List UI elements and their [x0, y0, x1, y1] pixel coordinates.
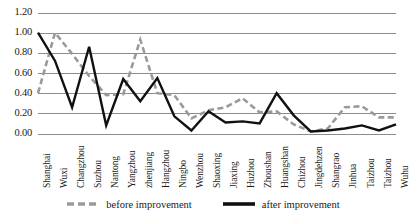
- x-axis-tick-label: Suzhou: [93, 160, 103, 188]
- legend-item-after-improvement[interactable]: after improvement: [222, 199, 340, 210]
- x-axis-tick-label: Hangzhou: [161, 150, 171, 188]
- y-axis-tick-label: 0.00: [2, 127, 32, 138]
- x-axis-tick-label: Chizhou: [297, 157, 307, 189]
- x-axis-tick-label: Shaoxing: [212, 153, 222, 188]
- chart-legend: before improvement after improvement: [0, 193, 406, 215]
- x-axis-tick-label: Shanghai: [42, 153, 52, 188]
- x-axis-tick-label: Ningbo: [178, 160, 188, 188]
- x-axis-tick-label: Taizhou: [366, 158, 376, 188]
- x-axis-tick-label: Jingdehzen: [314, 146, 324, 188]
- series-line-after-improvement: [38, 33, 396, 132]
- solid-line-marker: [222, 199, 256, 209]
- x-axis-tick-label: Wenzhou: [195, 153, 205, 188]
- y-axis-tick-label: 0.60: [2, 67, 32, 78]
- legend-item-before-improvement[interactable]: before improvement: [66, 199, 191, 210]
- x-axis-tick-label: Nantong: [110, 156, 120, 188]
- x-axis-tick-label: Changzhou: [76, 146, 86, 188]
- x-axis-tick-label: Wuhu: [400, 166, 410, 188]
- y-axis-tick-label: 0.80: [2, 46, 32, 57]
- series-group: [38, 33, 396, 132]
- y-axis-tick-label: 0.20: [2, 107, 32, 118]
- x-axis-tick-label: Taizhou: [383, 158, 393, 188]
- y-axis-tick-label: 1.20: [2, 6, 32, 17]
- dashed-line-marker: [66, 199, 100, 209]
- x-axis-tick-label: Shangrao: [331, 153, 341, 188]
- x-axis-tick-label: Huangshan: [280, 146, 290, 188]
- x-axis-tick-label: Yangzhou: [127, 151, 137, 188]
- x-axis-tick-label: Huzhou: [246, 159, 256, 188]
- legend-label-before-improvement: before improvement: [106, 199, 191, 210]
- x-axis-tick-label: Jinhua: [348, 164, 358, 188]
- x-axis-tick-label: Wuxi: [59, 168, 69, 188]
- x-axis-tick-label: Zhoushan: [263, 151, 273, 188]
- y-axis-tick-label: 0.40: [2, 87, 32, 98]
- x-axis-tick-label: zhenjiang: [144, 152, 154, 188]
- y-axis-tick-label: 1.00: [2, 26, 32, 37]
- x-axis-tick-label: Jiaxing: [229, 161, 239, 188]
- legend-label-after-improvement: after improvement: [262, 199, 340, 210]
